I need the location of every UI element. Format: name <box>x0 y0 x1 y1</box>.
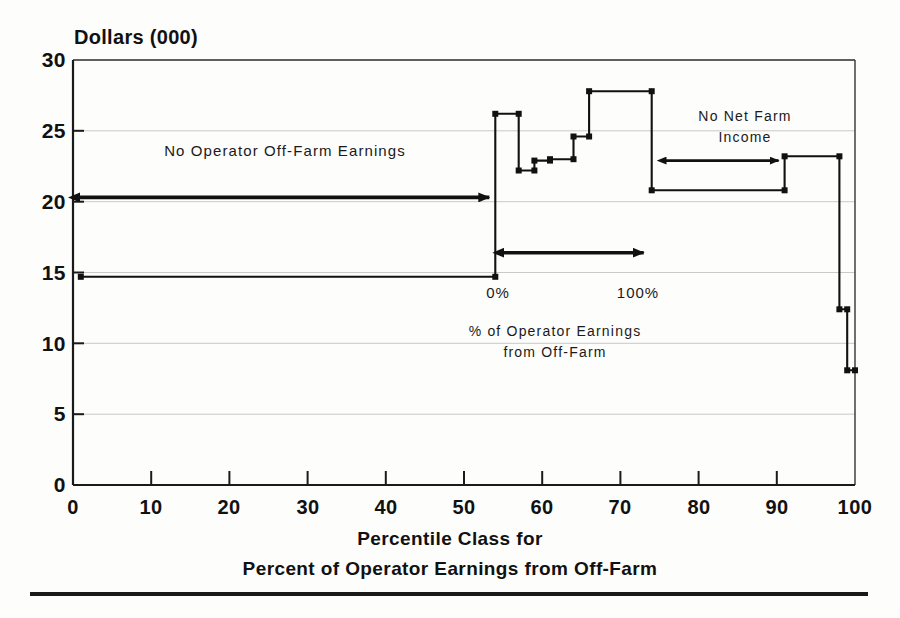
annotation-label-100-percent: 100% <box>603 284 673 301</box>
data-point-marker <box>531 168 537 174</box>
data-point-marker <box>649 88 655 94</box>
y-tick-label-0: 0 <box>20 473 66 497</box>
x-tick-label-80: 80 <box>669 496 729 519</box>
y-tick-label-5: 5 <box>20 402 66 426</box>
data-point-marker <box>649 187 655 193</box>
x-tick-marks <box>151 471 777 485</box>
data-point-marker <box>586 134 592 140</box>
x-tick-label-20: 20 <box>199 496 259 519</box>
y-tick-label-15: 15 <box>20 261 66 285</box>
x-tick-label-30: 30 <box>278 496 338 519</box>
x-axis-title-line2: Percent of Operator Earnings from Off-Fa… <box>0 558 900 580</box>
x-tick-label-90: 90 <box>747 496 807 519</box>
x-tick-label-100: 100 <box>825 496 885 519</box>
x-axis-title-line1: Percentile Class for <box>0 528 900 550</box>
x-tick-label-50: 50 <box>434 496 494 519</box>
data-point-marker <box>531 158 537 164</box>
data-point-marker <box>844 306 850 312</box>
data-point-marker <box>516 111 522 117</box>
data-point-marker <box>844 367 850 373</box>
data-point-marker <box>836 306 842 312</box>
y-tick-label-10: 10 <box>20 332 66 356</box>
data-point-marker <box>78 274 84 280</box>
data-point-marker <box>571 134 577 140</box>
data-point-marker <box>586 88 592 94</box>
y-tick-label-25: 25 <box>20 119 66 143</box>
data-point-marker <box>492 274 498 280</box>
x-tick-label-70: 70 <box>590 496 650 519</box>
data-point-marker <box>782 187 788 193</box>
x-tick-label-60: 60 <box>512 496 572 519</box>
data-point-marker <box>836 153 842 159</box>
annotation-label-no-net-farm-income-line1: No Net Farm <box>665 108 825 124</box>
data-point-marker <box>571 156 577 162</box>
x-tick-label-0: 0 <box>43 496 103 519</box>
chart-plot <box>0 0 900 618</box>
annotation-label-no-net-farm-income-line2: Income <box>665 129 825 145</box>
annotation-label-no-offfarm-earnings: No Operator Off-Farm Earnings <box>135 142 435 159</box>
y-tick-label-20: 20 <box>20 190 66 214</box>
data-point-marker <box>492 111 498 117</box>
data-point-marker <box>852 367 858 373</box>
annotation-label-0-percent: 0% <box>463 284 533 301</box>
y-tick-label-30: 30 <box>20 48 66 72</box>
x-tick-label-10: 10 <box>121 496 181 519</box>
x-tick-label-40: 40 <box>356 496 416 519</box>
data-point-marker <box>782 153 788 159</box>
annotation-label-pct-operator-earnings-line2: from Off-Farm <box>440 344 670 360</box>
data-point-marker <box>547 156 553 162</box>
data-point-marker <box>516 168 522 174</box>
y-tick-marks <box>73 131 84 414</box>
figure-canvas: Dollars (000) <box>0 0 900 618</box>
annotation-label-pct-operator-earnings-line1: % of Operator Earnings <box>440 323 670 339</box>
